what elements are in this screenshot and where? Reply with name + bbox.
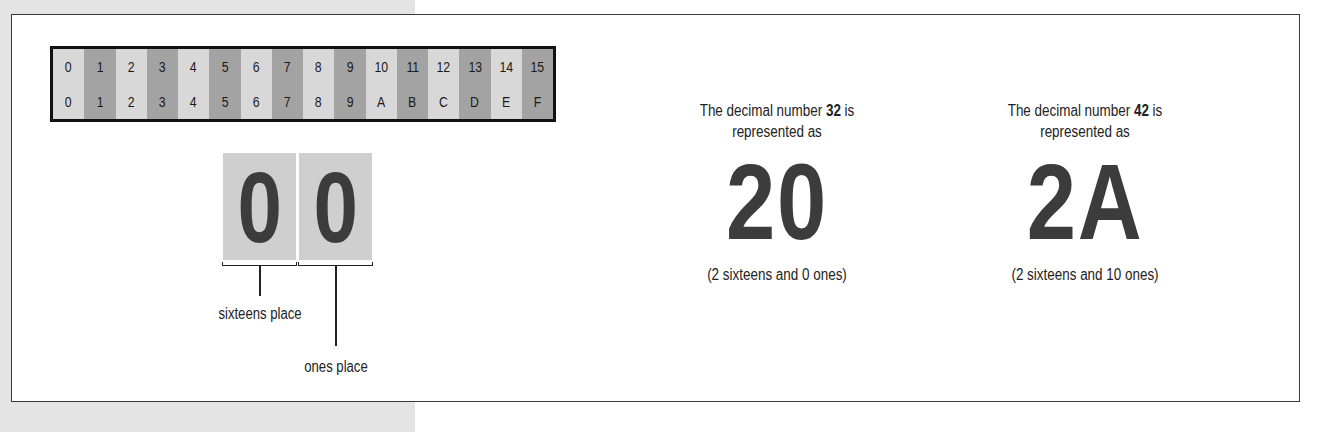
decimal-cell: 4	[190, 59, 197, 74]
caption-suffix: is	[1149, 102, 1162, 119]
hex-cell: 3	[159, 94, 166, 109]
hex-cell: 9	[346, 94, 353, 109]
hex-cell: 4	[190, 94, 197, 109]
hex-column: 99	[334, 49, 365, 119]
hex-cell: A	[377, 94, 385, 109]
decimal-cell: 10	[374, 59, 388, 74]
hex-column: 00	[53, 49, 84, 119]
example-caption: The decimal number 32 is represented as	[651, 100, 903, 142]
ones-digit: 0	[313, 157, 358, 257]
hex-column: 22	[116, 49, 147, 119]
hex-cell: 7	[284, 94, 291, 109]
hex-result: 20	[654, 148, 900, 256]
hex-reference-table: 0011223344556677889910A11B12C13D14E15F	[50, 46, 556, 122]
example-note: (2 sixteens and 10 ones)	[959, 266, 1211, 284]
decimal-cell: 0	[65, 59, 72, 74]
decimal-cell: 1	[96, 59, 103, 74]
hex-cell: F	[534, 94, 542, 109]
sixteens-place-label: sixteens place	[218, 305, 301, 323]
caption-prefix: The decimal number	[1008, 102, 1134, 119]
hex-column: 11B	[397, 49, 428, 119]
decimal-cell: 11	[406, 59, 419, 74]
hex-column: 33	[147, 49, 178, 119]
hex-cell: E	[502, 94, 510, 109]
decimal-cell: 6	[253, 59, 260, 74]
hex-cell: 2	[128, 94, 135, 109]
hex-cell: C	[439, 94, 448, 109]
example-32: The decimal number 32 is represented as …	[627, 100, 927, 284]
decimal-cell: 9	[346, 59, 353, 74]
decimal-cell: 7	[284, 59, 291, 74]
decimal-cell: 5	[221, 59, 228, 74]
hex-cell: D	[470, 94, 479, 109]
hex-column: 14E	[491, 49, 522, 119]
sixteens-leader-line	[259, 266, 261, 296]
hex-column: 77	[272, 49, 303, 119]
hex-result: 2A	[962, 148, 1208, 256]
hex-cell: 8	[315, 94, 322, 109]
decimal-cell: 15	[531, 59, 545, 74]
hex-cell: 6	[253, 94, 260, 109]
caption-suffix: is	[841, 102, 854, 119]
hex-column: 66	[241, 49, 272, 119]
hex-column: 55	[209, 49, 240, 119]
hex-cell: 0	[65, 94, 72, 109]
hex-cell: 5	[221, 94, 228, 109]
example-caption: The decimal number 42 is represented as	[959, 100, 1211, 142]
hex-column: 11	[84, 49, 115, 119]
decimal-cell: 14	[499, 59, 513, 74]
hex-column: 13D	[459, 49, 490, 119]
hex-column: 10A	[366, 49, 397, 119]
example-note: (2 sixteens and 0 ones)	[651, 266, 903, 284]
decimal-cell: 12	[437, 59, 451, 74]
ones-place-label: ones place	[304, 358, 367, 376]
caption-line2: represented as	[1040, 123, 1130, 140]
decimal-value: 32	[826, 102, 841, 119]
ones-digit-box: 0	[299, 153, 372, 260]
hex-column: 88	[303, 49, 334, 119]
caption-line2: represented as	[732, 123, 822, 140]
decimal-cell: 2	[128, 59, 135, 74]
sixteens-digit: 0	[237, 157, 282, 257]
hex-column: 44	[178, 49, 209, 119]
caption-prefix: The decimal number	[700, 102, 826, 119]
decimal-value: 42	[1134, 102, 1149, 119]
ones-leader-line	[335, 266, 337, 346]
decimal-cell: 8	[315, 59, 322, 74]
example-42: The decimal number 42 is represented as …	[935, 100, 1235, 284]
hex-cell: 1	[96, 94, 103, 109]
sixteens-digit-box: 0	[223, 153, 296, 260]
hex-cell: B	[408, 94, 416, 109]
hex-column: 15F	[522, 49, 553, 119]
decimal-cell: 3	[159, 59, 166, 74]
hex-column: 12C	[428, 49, 459, 119]
decimal-cell: 13	[468, 59, 482, 74]
